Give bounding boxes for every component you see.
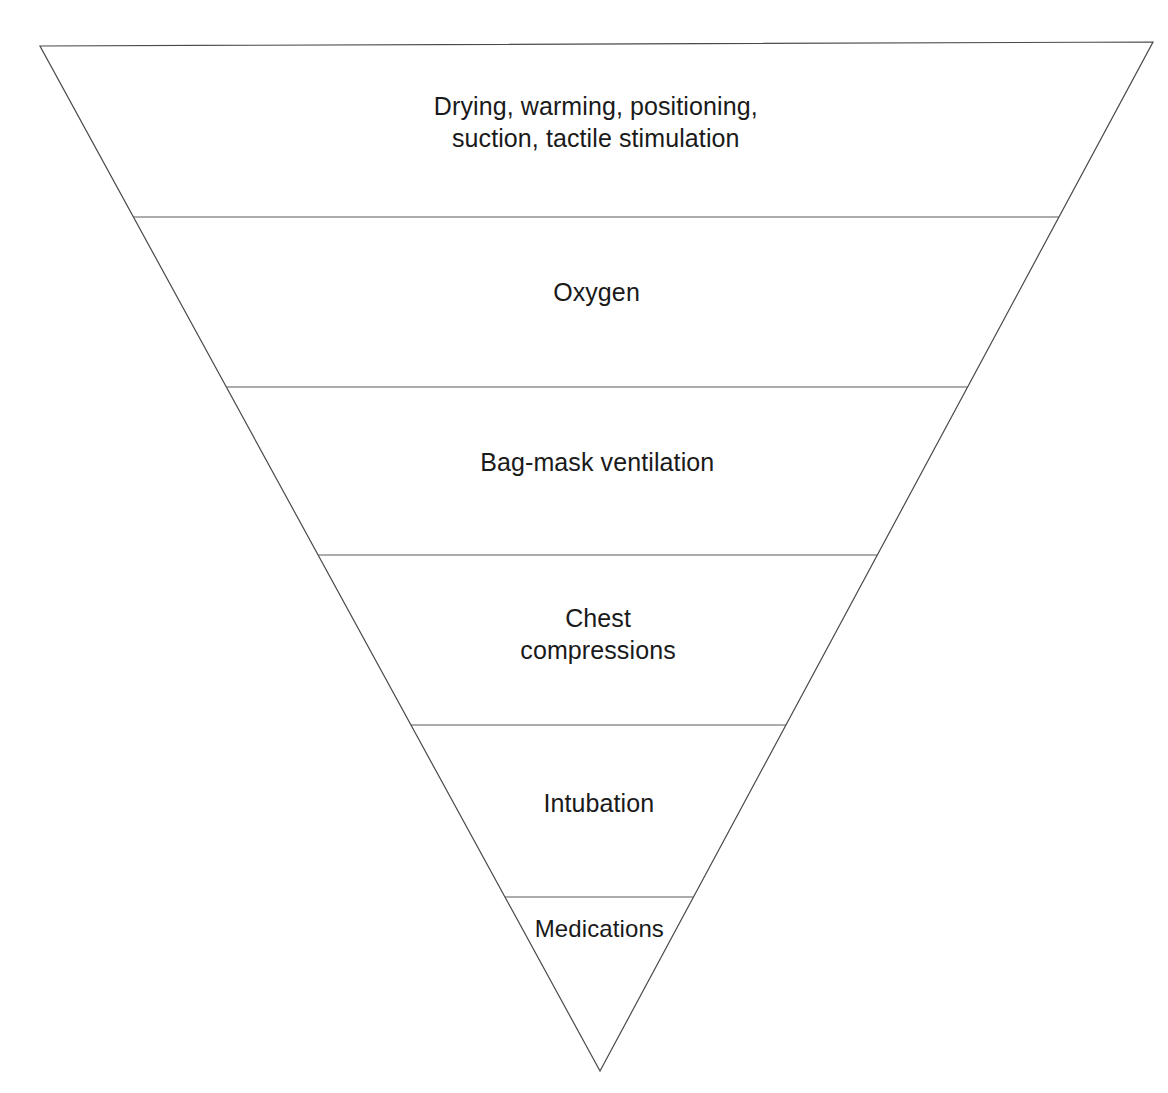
inverted-pyramid-diagram: Drying, warming, positioning, suction, t… [0, 0, 1168, 1093]
pyramid-shape [0, 0, 1168, 1093]
pyramid-outline [40, 42, 1153, 1071]
